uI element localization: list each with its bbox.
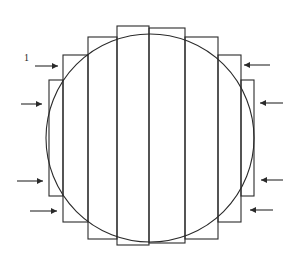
strip-1 [49, 80, 63, 196]
strip-3 [88, 37, 117, 239]
arrow-right-icon-3 [17, 178, 43, 184]
strip-5 [149, 28, 185, 243]
circle-outline [46, 34, 254, 242]
arrow-left-icon-1 [244, 62, 270, 68]
arrow-right-icon-1 [35, 63, 58, 69]
diagram-canvas: 1 [0, 0, 301, 263]
arrow-right-icon-4 [30, 208, 57, 214]
strip-6 [185, 37, 218, 239]
strip-7 [218, 55, 241, 222]
compression-arrows [17, 62, 283, 214]
arrow-left-icon-3 [261, 177, 283, 183]
strip-2 [63, 55, 88, 222]
strip-4 [117, 26, 149, 245]
arrow-right-icon-2 [21, 101, 42, 107]
label-1: 1 [24, 52, 29, 63]
arrow-left-icon-2 [260, 100, 283, 106]
arrow-left-icon-4 [250, 207, 273, 213]
strip-8 [241, 80, 254, 196]
